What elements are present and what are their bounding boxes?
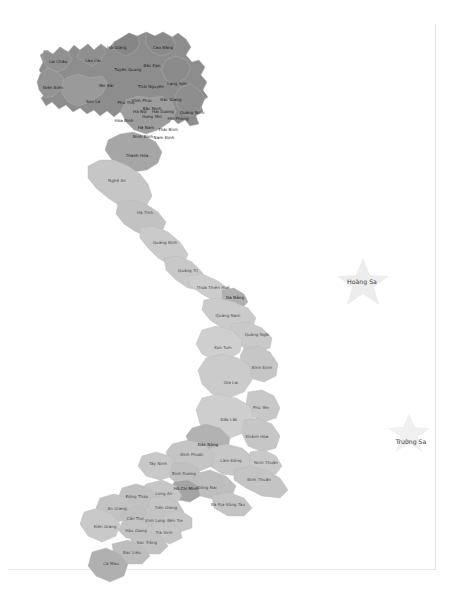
province-label[interactable]: Bình Thuận: [247, 478, 271, 483]
island-markers[interactable]: [337, 258, 430, 452]
province-label[interactable]: Tiền Giang: [155, 506, 177, 511]
province-label[interactable]: Bà Rịa-Vũng Tàu: [211, 503, 245, 508]
map-page: Hà GiangCao BằngLai ChâuLào CaiTuyên Qua…: [0, 0, 460, 598]
province-label[interactable]: An Giang: [107, 507, 126, 512]
truong-sa-star[interactable]: [388, 414, 430, 452]
province-label[interactable]: Ninh Thuận: [254, 461, 278, 466]
province-label[interactable]: Bắc Kạn: [143, 64, 160, 69]
province-label[interactable]: Gia Lai: [224, 381, 238, 386]
province-label[interactable]: Nghệ An: [108, 179, 126, 184]
province-label[interactable]: Sơn La: [86, 100, 100, 105]
province-label[interactable]: Đắk Nông: [198, 443, 219, 448]
province-label[interactable]: Quảng Bình: [153, 241, 177, 246]
province-label[interactable]: Lai Châu: [49, 60, 67, 65]
province-label[interactable]: Hồ Chí Minh: [174, 487, 199, 491]
province-label[interactable]: Thanh Hóa: [126, 154, 149, 159]
province-label[interactable]: Bắc Giang: [160, 98, 181, 103]
province-label[interactable]: Quảng Trị: [178, 269, 198, 274]
province-label[interactable]: Lâm Đồng: [220, 459, 241, 464]
province-label[interactable]: Hà Giang: [107, 46, 126, 51]
province-label[interactable]: Lạng Sơn: [167, 82, 186, 87]
province-label[interactable]: Ninh Bình: [133, 135, 153, 140]
province-label[interactable]: Đồng Nai: [197, 486, 216, 491]
vietnam-map[interactable]: Hà GiangCao BằngLai ChâuLào CaiTuyên Qua…: [0, 0, 460, 598]
province-label[interactable]: Thừa Thiên Huế: [196, 286, 229, 291]
province-label[interactable]: Bạc Liêu: [123, 551, 141, 556]
province-label[interactable]: Quảng Ngãi: [245, 333, 270, 338]
province-label[interactable]: Điện Biên: [43, 86, 63, 91]
province-label[interactable]: Vĩnh Phúc: [132, 99, 153, 104]
province-label[interactable]: Hòa Bình: [115, 119, 134, 124]
province-label[interactable]: Bình Định: [252, 366, 272, 371]
province-label[interactable]: Tây Ninh: [149, 462, 167, 467]
province-label[interactable]: Thái Bình: [158, 128, 178, 133]
province-label[interactable]: Phú Yên: [253, 406, 269, 411]
province-label[interactable]: Đà Nẵng: [226, 296, 244, 301]
province-label[interactable]: Thái Nguyên: [138, 85, 164, 89]
province-label[interactable]: Sóc Trăng: [137, 541, 157, 546]
province-label[interactable]: Nam Định: [154, 136, 175, 141]
island-label[interactable]: Hoàng Sa: [347, 278, 377, 285]
island-label[interactable]: Trường Sa: [396, 438, 427, 445]
province-label[interactable]: Đắk Lắk: [221, 418, 238, 423]
province-label[interactable]: Hải Phòng: [167, 117, 188, 122]
province-label[interactable]: Đồng Tháp: [126, 495, 148, 499]
province-label[interactable]: Hậu Giang: [125, 529, 146, 533]
province-label[interactable]: Lào Cai: [85, 59, 100, 64]
province-label[interactable]: Khánh Hòa: [246, 435, 269, 440]
province-label[interactable]: Kon Tum: [214, 346, 232, 351]
province-label[interactable]: Quảng Ninh: [180, 111, 205, 116]
province-label[interactable]: Hưng Yên: [142, 115, 162, 120]
province-label[interactable]: Tuyên Quang: [115, 68, 142, 72]
province-label[interactable]: Bến Tre: [167, 519, 183, 524]
province-label[interactable]: Hà Tĩnh: [137, 211, 153, 216]
province-label[interactable]: Hà Nam: [138, 126, 155, 131]
province-label[interactable]: Bình Dương: [172, 472, 196, 476]
province-label[interactable]: Long An: [156, 492, 173, 497]
province-label[interactable]: Cần Thơ: [127, 517, 144, 521]
province-label[interactable]: Bình Phước: [180, 453, 203, 458]
province-label[interactable]: Vĩnh Long: [145, 519, 165, 523]
province-label[interactable]: Cao Bằng: [153, 46, 173, 51]
province-label[interactable]: Kiên Giang: [94, 525, 117, 530]
province-label[interactable]: Cà Mau: [103, 562, 119, 567]
province-label[interactable]: Quảng Nam: [216, 314, 241, 319]
province-label[interactable]: Yên Bái: [98, 84, 113, 89]
province-label[interactable]: Trà Vinh: [156, 531, 173, 536]
